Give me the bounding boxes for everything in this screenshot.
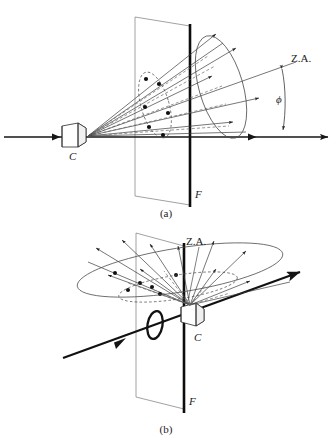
intersection-dot — [147, 125, 151, 129]
zenith-axis-label-a: Z.A. — [291, 52, 311, 64]
plane-label-a: F — [194, 188, 202, 200]
camera-body-a — [62, 123, 86, 147]
intersection-dot — [157, 82, 161, 86]
phi-angle-arc — [282, 69, 285, 130]
phi-angle-label-a: ϕ — [276, 93, 282, 105]
intersection-dot — [150, 285, 154, 289]
cone-base-a — [185, 30, 257, 144]
zenith-axis-b — [188, 247, 199, 301]
intersection-dot — [166, 111, 170, 115]
panel-b-caption: (b) — [160, 423, 173, 436]
zenith-axis-label-b: Z.A. — [186, 235, 206, 247]
intersection-dot — [126, 288, 130, 292]
intersection-dot — [161, 133, 165, 137]
camera-label-a: C — [69, 150, 77, 162]
panel-b-diagram: Z.A. C F (b) — [0, 221, 332, 442]
intersection-dot — [138, 281, 142, 285]
camera-label-b: C — [194, 331, 202, 343]
zenith-axis-a — [88, 62, 296, 136]
plane-label-b: F — [188, 395, 196, 407]
figure-root: Z.A. ϕ C F (a) — [0, 0, 332, 442]
panel-a-diagram: Z.A. ϕ C F (a) — [0, 0, 332, 221]
intersection-dot — [143, 105, 147, 109]
focal-plane-a — [135, 17, 190, 207]
optical-axis-a — [4, 133, 328, 140]
camera-body-b — [181, 303, 204, 326]
ray-cone-a — [88, 34, 259, 136]
cone-base-b — [74, 232, 286, 308]
panel-a-caption: (a) — [160, 207, 173, 220]
intersection-dot — [144, 77, 148, 81]
intersection-dot — [113, 271, 117, 275]
